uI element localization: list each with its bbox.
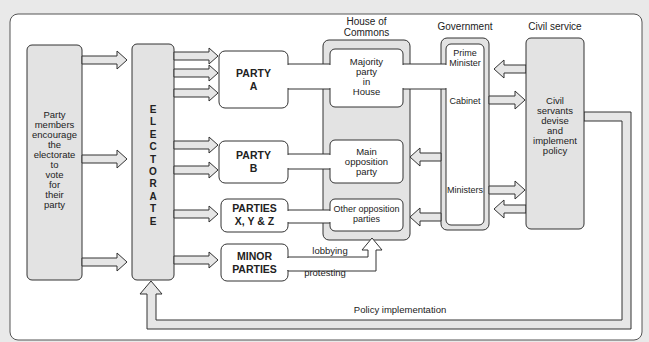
letter: E (132, 216, 174, 228)
party-b-label: PARTY B (219, 149, 288, 175)
letter: E (132, 129, 174, 141)
government-inner-box (446, 44, 484, 225)
house-of-commons-heading: House of Commons (310, 16, 423, 38)
letter: C (132, 141, 174, 153)
civil-service-label: Civil servants devise and implement poli… (526, 96, 584, 156)
electorate-label: E L E C T O R A T E (132, 104, 174, 228)
text-line: PARTY (219, 149, 288, 162)
letter: T (132, 154, 174, 166)
parties-xyz-opposition-link (288, 210, 332, 223)
lobbying-label: lobbying (300, 246, 360, 256)
text-line: House of (310, 16, 423, 27)
text-line: party (27, 200, 82, 210)
text-line: party (330, 167, 403, 177)
text-line: Minister (446, 58, 484, 68)
text-line: B (219, 162, 288, 175)
cabinet-label: Cabinet (446, 96, 484, 106)
minor-parties-label: MINOR PARTIES (221, 250, 288, 276)
letter: O (132, 166, 174, 178)
text-line: A (219, 80, 288, 93)
ministers-label: Ministers (444, 185, 486, 195)
letter: R (132, 178, 174, 190)
letter: L (132, 116, 174, 128)
government-heading: Government (425, 22, 505, 32)
party-members-text: Party members encourage the electorate t… (27, 110, 82, 210)
text-line: PARTIES (221, 202, 288, 215)
letter: A (132, 191, 174, 203)
other-opposition-label: Other opposition parties (330, 204, 403, 224)
policy-implementation-label: Policy implementation (330, 305, 470, 315)
text-line: policy (526, 146, 584, 156)
text-line: Other opposition (330, 204, 403, 214)
letter: E (132, 104, 174, 116)
text-line: Commons (310, 27, 423, 38)
letter: T (132, 203, 174, 215)
text-line: X, Y & Z (221, 215, 288, 228)
party-b-opposition-link (288, 154, 332, 169)
main-opposition-label: Main opposition party (330, 147, 403, 177)
civil-service-heading: Civil service (510, 22, 600, 32)
text-line: MINOR (221, 250, 288, 263)
diagram-canvas: Party members encourage the electorate t… (0, 0, 649, 342)
majority-party-label: Majority party in House (330, 57, 403, 97)
protesting-label: protesting (295, 268, 355, 278)
text-line: parties (330, 214, 403, 224)
text-line: PARTY (219, 67, 288, 80)
diagram-svg (0, 0, 649, 342)
parties-xyz-label: PARTIES X, Y & Z (221, 202, 288, 228)
text-line: Prime (446, 48, 484, 58)
text-line: House (330, 87, 403, 97)
text-line: PARTIES (221, 263, 288, 276)
party-a-label: PARTY A (219, 67, 288, 93)
prime-minister-label: Prime Minister (446, 48, 484, 68)
